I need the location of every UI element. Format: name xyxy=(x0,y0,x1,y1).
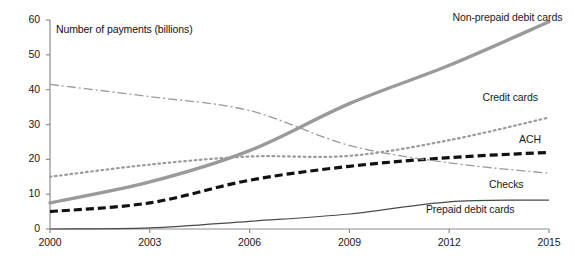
y-axis-tick-label: 60 xyxy=(18,13,40,25)
y-axis-tick-label: 0 xyxy=(18,222,40,234)
series-line-0 xyxy=(50,22,549,203)
chart-series-lines xyxy=(50,22,549,229)
y-axis-title: Number of payments (billions) xyxy=(56,23,193,35)
x-axis-tick-label: 2006 xyxy=(228,236,272,248)
x-axis-tick-label: 2000 xyxy=(28,236,72,248)
series-label-1: Credit cards xyxy=(482,91,537,103)
x-axis-ticks xyxy=(50,229,549,233)
x-axis-tick-label: 2015 xyxy=(527,236,571,248)
y-axis-tick-label: 40 xyxy=(18,83,40,95)
y-axis-tick-label: 20 xyxy=(18,152,40,164)
y-axis-tick-label: 10 xyxy=(18,187,40,199)
y-axis-tick-label: 50 xyxy=(18,48,40,60)
x-axis-tick-label: 2003 xyxy=(128,236,172,248)
chart-plot-area xyxy=(0,0,574,267)
series-label-0: Non-prepaid debit cards xyxy=(453,11,563,23)
series-label-3: Checks xyxy=(489,178,523,190)
series-label-4: Prepaid debit cards xyxy=(426,203,515,215)
chart-container: Number of payments (billions) 0102030405… xyxy=(0,0,574,267)
series-label-2: ACH xyxy=(519,133,541,145)
x-axis-tick-label: 2009 xyxy=(327,236,371,248)
x-axis-tick-label: 2012 xyxy=(427,236,471,248)
y-axis-tick-label: 30 xyxy=(18,118,40,130)
